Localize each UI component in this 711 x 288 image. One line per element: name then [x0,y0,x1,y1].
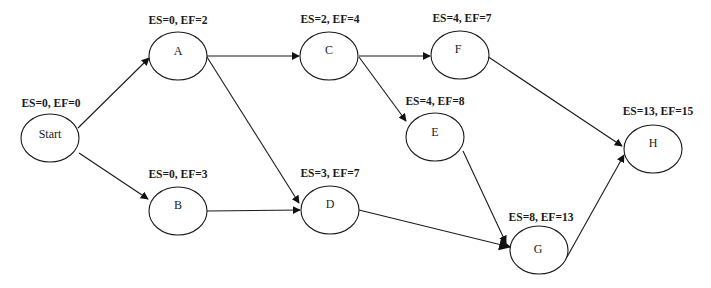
node-a-times: ES=0, EF=2 [148,14,207,26]
edge-c-e [359,57,406,121]
node-e-label: E [431,125,438,139]
edge-g-h [567,155,624,257]
node-g-times: ES=8, EF=13 [509,211,574,223]
node-b-times: ES=0, EF=3 [148,168,207,180]
node-start-label: Start [39,127,62,141]
node-e: E ES=4, EF=8 [405,95,464,161]
node-f: F ES=4, EF=7 [431,12,492,79]
node-f-times: ES=4, EF=7 [432,12,491,24]
node-f-label: F [455,42,462,56]
node-a: A ES=0, EF=2 [148,14,207,80]
node-h-times: ES=13, EF=15 [623,105,694,117]
node-c-label: C [325,43,333,57]
edge-d-g [359,210,510,247]
node-d: D ES=3, EF=7 [300,167,359,234]
edge-f-h [487,56,622,146]
node-g-label: G [534,242,543,256]
node-b: B ES=0, EF=3 [148,168,207,235]
node-g: G ES=8, EF=13 [509,211,574,274]
edge-b-d [207,210,300,211]
edge-e-g [463,151,506,243]
node-c: C ES=2, EF=4 [300,13,360,80]
node-c-times: ES=2, EF=4 [300,13,359,25]
node-b-label: B [174,198,182,212]
node-h-label: H [649,136,658,150]
node-start-times: ES=0, EF=0 [21,97,80,109]
edge-a-d [207,57,299,203]
node-h: H ES=13, EF=15 [623,105,694,173]
node-start: Start ES=0, EF=0 [21,97,81,162]
node-a-label: A [174,44,183,58]
node-d-label: D [326,197,335,211]
node-d-times: ES=3, EF=7 [300,167,359,179]
edge-start-b [79,153,148,199]
activity-network-diagram: Start ES=0, EF=0 A ES=0, EF=2 B ES=0, EF… [0,0,711,288]
edge-start-a [78,58,149,128]
node-e-times: ES=4, EF=8 [405,95,464,107]
